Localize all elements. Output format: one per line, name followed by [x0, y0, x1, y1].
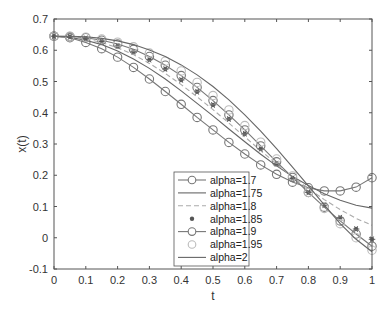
circle-marker	[209, 91, 217, 99]
circle-marker	[225, 106, 233, 114]
legend-label: alpha=2	[210, 251, 248, 263]
y-tick-label: 0.2	[33, 169, 48, 181]
y-tick-label: 0.7	[33, 13, 48, 25]
x-tick-label: 0.9	[333, 274, 348, 286]
legend-label: alpha=1.95	[210, 238, 262, 250]
y-tick-label: 0.3	[33, 138, 48, 150]
y-tick-label: 0.1	[33, 201, 48, 213]
y-axis-label: x(t)	[15, 135, 29, 152]
legend-asterisk-icon	[190, 217, 194, 221]
x-tick-label: 0.3	[142, 274, 157, 286]
x-axis-label: t	[211, 289, 215, 303]
legend-label: alpha=1.8	[210, 200, 257, 212]
x-tick-label: 1	[369, 274, 375, 286]
legend-label: alpha=1.9	[210, 225, 257, 237]
legend-label: alpha=1.85	[210, 213, 262, 225]
series-alpha-1-7	[50, 32, 376, 195]
circle-marker	[193, 78, 201, 86]
legend: alpha=1.7alpha=1.75alpha=1.8alpha=1.85al…	[174, 172, 262, 266]
legend-circle-icon	[188, 241, 196, 249]
x-tick-label: 0.6	[237, 274, 252, 286]
y-tick-label: 0.4	[33, 107, 48, 119]
x-tick-label: 0.7	[269, 274, 284, 286]
x-tick-label: 0.2	[110, 274, 125, 286]
x-tick-label: 0.8	[301, 274, 316, 286]
x-tick-label: 0.4	[174, 274, 189, 286]
legend-label: alpha=1.7	[210, 174, 257, 186]
y-tick-label: -0.1	[29, 263, 48, 275]
line-chart: 00.10.20.30.40.50.60.70.80.91-0.100.10.2…	[0, 0, 392, 315]
y-tick-label: 0.6	[33, 44, 48, 56]
legend-circle-icon	[188, 228, 196, 236]
legend-circle-icon	[188, 176, 196, 184]
x-tick-label: 0.5	[205, 274, 220, 286]
legend-label: alpha=1.75	[210, 187, 262, 199]
y-tick-label: 0.5	[33, 76, 48, 88]
x-tick-label: 0	[51, 274, 57, 286]
x-tick-label: 0.1	[78, 274, 93, 286]
y-tick-label: 0	[42, 232, 48, 244]
